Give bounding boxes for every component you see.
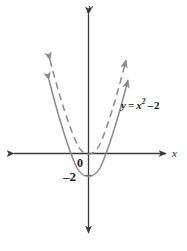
equation-exponent: 2 <box>142 97 146 106</box>
y-axis-label: y <box>88 2 93 13</box>
origin-tick-label: 0 <box>77 157 83 169</box>
curve-equation-label: y=x2–2 <box>121 100 159 111</box>
equation-constant-term: 2 <box>154 99 160 111</box>
coordinate-plane <box>0 0 187 251</box>
equation-equals-sign: = <box>128 99 134 111</box>
equation-minus-sign: – <box>147 99 153 111</box>
y-intercept-tick-label: –2 <box>63 170 76 183</box>
x-axis-label: x <box>172 148 177 159</box>
parabola-figure: y x 0 –2 y=x2–2 <box>0 0 187 251</box>
equation-y-term: y <box>121 99 126 111</box>
